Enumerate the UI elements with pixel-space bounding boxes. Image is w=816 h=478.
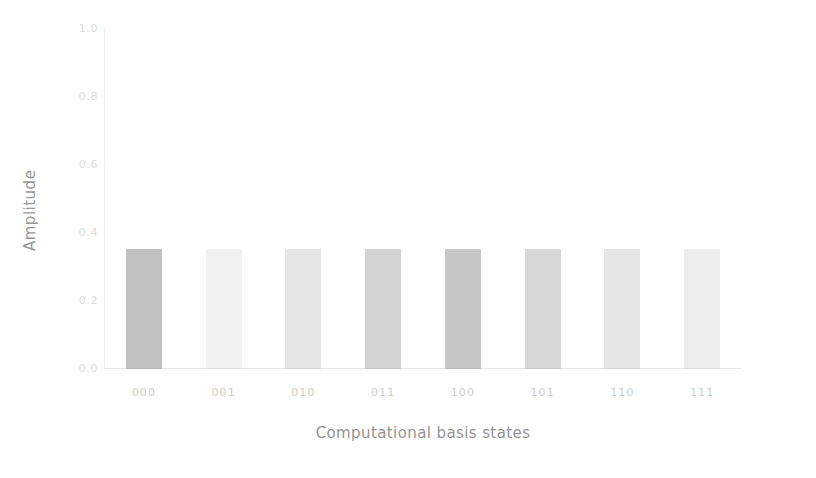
bar bbox=[206, 249, 242, 369]
y-axis-tick-label: 0.8 bbox=[54, 90, 98, 103]
y-axis-title: Amplitude bbox=[18, 130, 42, 290]
x-axis-title: Computational basis states bbox=[104, 424, 742, 442]
bar bbox=[604, 249, 640, 369]
bar bbox=[525, 249, 561, 369]
y-axis-tick-label: 0.6 bbox=[54, 158, 98, 171]
bar-series bbox=[104, 28, 742, 369]
bar bbox=[445, 249, 481, 369]
x-axis-tick-label: 110 bbox=[610, 386, 634, 399]
x-axis-tick-label: 000 bbox=[132, 386, 156, 399]
y-axis-tick-label: 0.2 bbox=[54, 294, 98, 307]
figure-bar-chart: Amplitude 1.00.80.60.40.20.0 00000101001… bbox=[0, 0, 816, 478]
x-axis-tick-label: 010 bbox=[291, 386, 315, 399]
bar bbox=[365, 249, 401, 369]
x-axis-tick-label: 111 bbox=[690, 386, 714, 399]
bar bbox=[285, 249, 321, 369]
x-axis-tick-labels: 000001010011100101110111 bbox=[104, 386, 742, 406]
y-axis-tick-label: 0.0 bbox=[54, 362, 98, 375]
bar bbox=[126, 249, 162, 369]
bar bbox=[684, 249, 720, 369]
x-axis-tick-label: 100 bbox=[451, 386, 475, 399]
x-axis-tick-label: 011 bbox=[371, 386, 395, 399]
y-axis-tick-label: 1.0 bbox=[54, 22, 98, 35]
y-axis-tick-labels: 1.00.80.60.40.20.0 bbox=[44, 0, 98, 478]
y-axis-tick-label: 0.4 bbox=[54, 226, 98, 239]
x-axis-tick-label: 101 bbox=[530, 386, 554, 399]
x-axis-tick-label: 001 bbox=[211, 386, 235, 399]
